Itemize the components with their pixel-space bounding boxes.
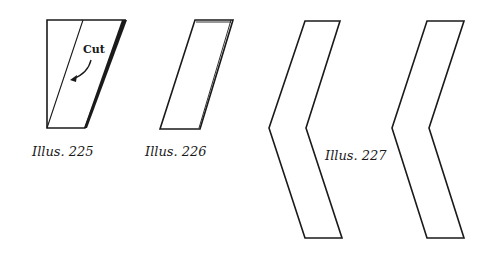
cut-label: Cut: [83, 43, 105, 56]
illus-226-parallelogram: [160, 20, 233, 129]
illus-227-chevron-right: [392, 21, 464, 238]
illustration-page: Cut Illus. 225 Illus. 226 Illus. 227: [0, 0, 496, 253]
illus-227-chevron-left: [269, 21, 342, 238]
illus-225-trapezoid: [47, 20, 127, 128]
caption-illus-225: Illus. 225: [32, 144, 94, 159]
caption-illus-226: Illus. 226: [145, 144, 207, 159]
line-drawings: [0, 0, 496, 253]
caption-illus-227: Illus. 227: [325, 148, 387, 163]
cut-arrow-icon: [70, 60, 91, 82]
